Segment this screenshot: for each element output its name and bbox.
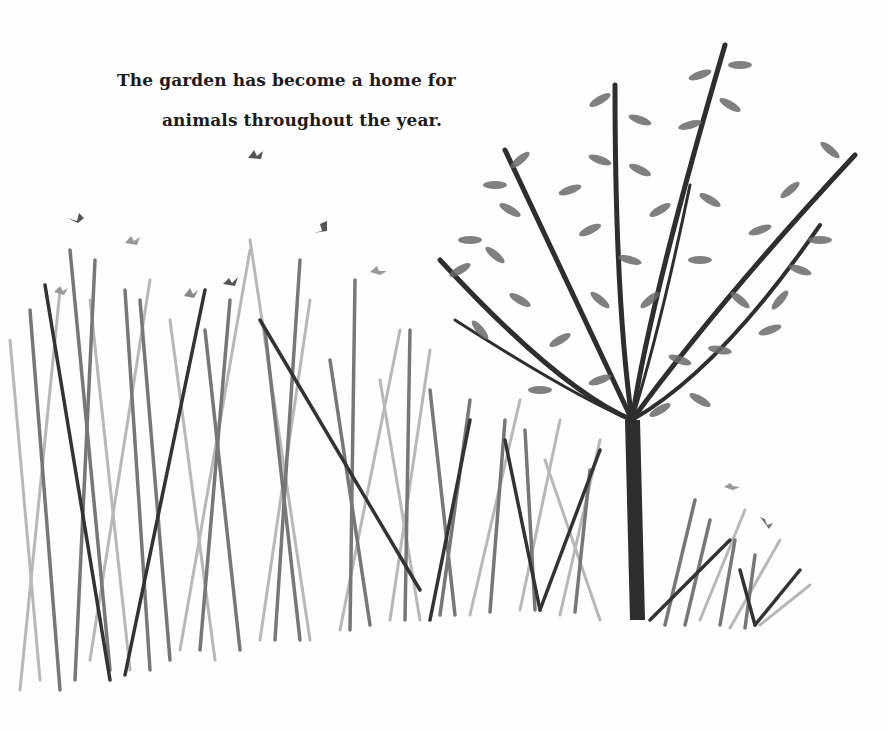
butterfly-icon [760, 517, 773, 529]
butterfly-icon [248, 150, 263, 159]
garden-illustration [0, 0, 889, 732]
caption-line-2: animals throughout the year. [162, 110, 442, 130]
tree [440, 45, 855, 620]
grass-mid [30, 250, 755, 690]
butterfly-icon [724, 483, 740, 490]
tree-leaves [448, 61, 842, 419]
grass-light [10, 240, 810, 690]
butterfly-icon [184, 288, 198, 298]
butterfly-icon [67, 213, 84, 223]
butterfly-icon [125, 236, 140, 245]
butterfly-icon [54, 286, 68, 295]
butterfly-icon [223, 277, 238, 286]
book-page: The garden has become a home for animals… [0, 0, 889, 732]
butterfly-icon [313, 221, 327, 233]
butterfly-icon [370, 266, 387, 275]
caption-line-1: The garden has become a home for [117, 70, 456, 90]
